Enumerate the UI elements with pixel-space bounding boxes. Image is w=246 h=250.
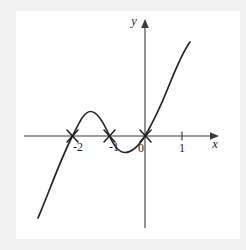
x-tick-label-one: 1 xyxy=(179,141,185,155)
x-tick-label-minus-2: -2 xyxy=(73,140,83,154)
graph-canvas: x y -2 -1 0 1 xyxy=(0,0,246,250)
x-tick-label-minus-1: -1 xyxy=(109,140,119,154)
x-axis-label: x xyxy=(211,137,218,151)
y-axis-label: y xyxy=(129,14,137,28)
x-tick-label-zero: 0 xyxy=(138,141,144,155)
y-axis-arrow-icon xyxy=(141,19,149,28)
figure-container: x y -2 -1 0 1 xyxy=(0,0,246,250)
